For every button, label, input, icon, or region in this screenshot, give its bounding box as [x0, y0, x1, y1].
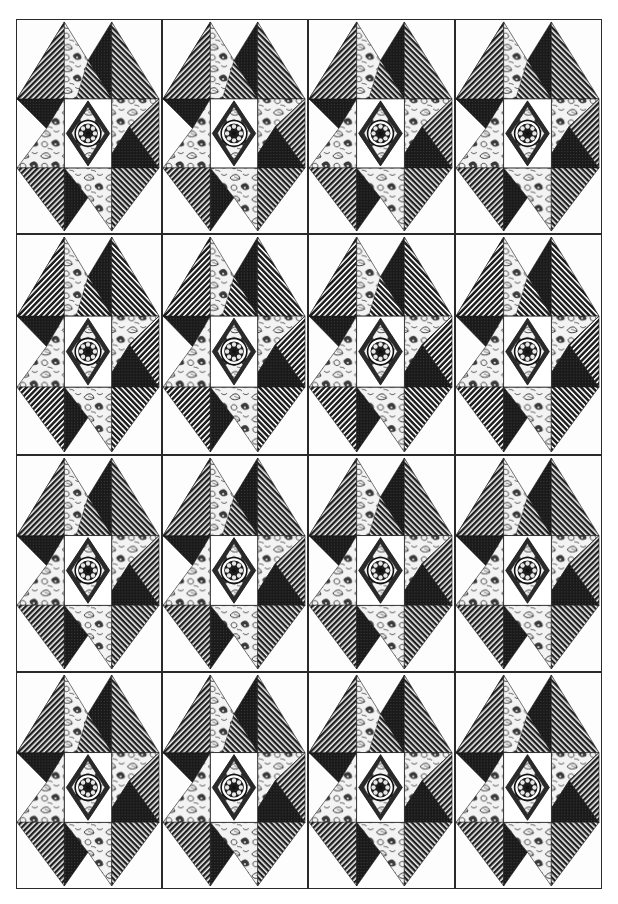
block-r3-c4: block-r3-c4	[455, 455, 602, 672]
block-r4-c1: block-r4-c1	[16, 672, 162, 889]
bottom-left-diamond-left	[309, 387, 357, 452]
block-r1-c3: block-r1-c3	[308, 19, 455, 234]
bottom-right-diamond	[551, 387, 599, 452]
bottom-right-diamond	[112, 168, 159, 231]
block-r4-c4: block-r4-c4	[455, 672, 602, 889]
quilt-block-art	[17, 235, 161, 454]
bottom-right-diamond	[112, 387, 159, 452]
quilt-block-art	[309, 456, 454, 671]
quilt-block-art	[17, 20, 161, 233]
block-r1-c2: block-r1-c2	[162, 19, 308, 234]
top-right-diamond-right	[258, 22, 305, 99]
quilt-block-art	[309, 20, 454, 233]
bottom-left-diamond-left	[456, 387, 504, 452]
bottom-left-diamond-left	[309, 822, 357, 886]
top-right-diamond-right	[112, 458, 159, 536]
quilt-block-art	[163, 673, 307, 888]
bottom-right-diamond	[404, 387, 452, 452]
top-right-diamond-right	[551, 22, 599, 99]
bottom-right-diamond	[258, 168, 305, 231]
bottom-left-diamond-left	[17, 168, 64, 231]
block-r3-c1: block-r3-c1	[16, 455, 162, 672]
bottom-right-diamond	[551, 168, 599, 231]
bottom-left-diamond-left	[456, 822, 504, 886]
top-right-diamond-right	[258, 237, 305, 316]
top-right-diamond-right	[258, 675, 305, 753]
bottom-right-diamond	[258, 387, 305, 452]
top-right-diamond-right	[404, 237, 452, 316]
quilt-block-art	[17, 673, 161, 888]
block-r2-c2: block-r2-c2	[162, 234, 308, 455]
quilt-block-art	[163, 235, 307, 454]
top-right-diamond-right	[404, 458, 452, 536]
bottom-left-diamond-left	[309, 168, 357, 231]
bottom-right-diamond	[551, 822, 599, 886]
bottom-right-diamond	[551, 605, 599, 669]
bottom-right-diamond	[112, 605, 159, 669]
top-right-diamond-right	[112, 237, 159, 316]
bottom-left-diamond-left	[163, 168, 210, 231]
top-right-diamond-right	[404, 22, 452, 99]
quilt-block-art	[456, 235, 601, 454]
bottom-right-diamond	[404, 822, 452, 886]
bottom-left-diamond-left	[163, 822, 210, 886]
top-right-diamond-right	[551, 675, 599, 753]
top-right-diamond-right	[258, 458, 305, 536]
bottom-left-diamond-left	[17, 822, 64, 886]
block-r1-c4: block-r1-c4	[455, 19, 602, 234]
top-right-diamond-right	[404, 675, 452, 753]
bottom-left-diamond-left	[163, 387, 210, 452]
bottom-right-diamond	[404, 168, 452, 231]
bottom-left-diamond-left	[309, 605, 357, 669]
quilt-block-art	[456, 456, 601, 671]
bottom-right-diamond	[258, 605, 305, 669]
quilt-block-art	[163, 20, 307, 233]
top-right-diamond-right	[551, 237, 599, 316]
bottom-left-diamond-left	[17, 387, 64, 452]
illustration-title: Quilt block layout	[0, 0, 1, 1]
bottom-right-diamond	[112, 822, 159, 886]
quilt-block-art	[456, 673, 601, 888]
bottom-right-diamond	[404, 605, 452, 669]
block-r4-c3: block-r4-c3	[308, 672, 455, 889]
bottom-left-diamond-left	[456, 168, 504, 231]
block-r3-c3: block-r3-c3	[308, 455, 455, 672]
block-r2-c4: block-r2-c4	[455, 234, 602, 455]
quilt-block-art	[163, 456, 307, 671]
block-r2-c3: block-r2-c3	[308, 234, 455, 455]
block-r3-c2: block-r3-c2	[162, 455, 308, 672]
quilt-block-art	[309, 673, 454, 888]
bottom-left-diamond-left	[17, 605, 64, 669]
quilt-block-art	[309, 235, 454, 454]
block-r4-c2: block-r4-c2	[162, 672, 308, 889]
bottom-left-diamond-left	[456, 605, 504, 669]
quilt-block-art	[456, 20, 601, 233]
bottom-left-diamond-left	[163, 605, 210, 669]
block-r1-c1: block-r1-c1	[16, 19, 162, 234]
top-right-diamond-right	[112, 22, 159, 99]
bottom-right-diamond	[258, 822, 305, 886]
quilt-illustration: Quilt block layout	[0, 0, 618, 904]
quilt-block-art	[17, 456, 161, 671]
top-right-diamond-right	[112, 675, 159, 753]
block-r2-c1: block-r2-c1	[16, 234, 162, 455]
top-right-diamond-right	[551, 458, 599, 536]
